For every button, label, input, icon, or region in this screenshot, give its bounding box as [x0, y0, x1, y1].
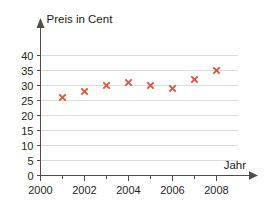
- data-point-2007: [191, 76, 197, 82]
- y-axis-title: Preis in Cent: [47, 13, 114, 25]
- y-tick-label-35: 35: [21, 65, 33, 77]
- chart-canvas: 051015202530354020002002200420062008Prei…: [0, 0, 267, 207]
- y-tick-label-0: 0: [27, 170, 33, 182]
- x-tick-label-2000: 2000: [28, 184, 52, 196]
- y-tick-label-10: 10: [21, 140, 33, 152]
- x-tick-label-2004: 2004: [116, 184, 140, 196]
- y-tick-label-40: 40: [21, 50, 33, 62]
- y-axis-arrow: [37, 18, 45, 28]
- y-tick-label-20: 20: [21, 110, 33, 122]
- x-axis-title: Jahr: [224, 159, 247, 171]
- data-point-2002: [81, 88, 87, 94]
- x-tick-label-2006: 2006: [160, 184, 184, 196]
- y-tick-label-15: 15: [21, 125, 33, 137]
- y-tick-label-5: 5: [27, 155, 33, 167]
- data-point-2006: [169, 85, 175, 91]
- x-axis-arrow: [249, 171, 258, 179]
- scatter-chart: 051015202530354020002002200420062008Prei…: [0, 0, 267, 207]
- y-tick-label-30: 30: [21, 80, 33, 92]
- x-tick-label-2008: 2008: [204, 184, 228, 196]
- data-point-2004: [125, 79, 131, 85]
- y-tick-label-25: 25: [21, 95, 33, 107]
- x-tick-label-2002: 2002: [72, 184, 96, 196]
- data-point-2001: [59, 94, 65, 100]
